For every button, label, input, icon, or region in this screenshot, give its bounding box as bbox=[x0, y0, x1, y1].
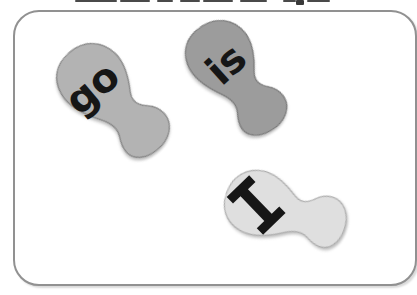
footprint-shape bbox=[174, 9, 296, 150]
footprint-go[interactable] bbox=[44, 30, 180, 174]
footprint-shape bbox=[44, 30, 180, 174]
footprint-i[interactable] bbox=[216, 161, 354, 264]
footprint-shape bbox=[216, 161, 354, 264]
footprint-is[interactable] bbox=[174, 9, 296, 150]
